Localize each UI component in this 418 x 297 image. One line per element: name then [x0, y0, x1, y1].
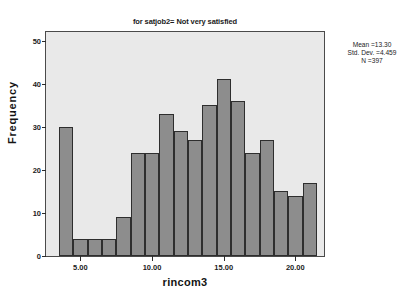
histogram-bar [245, 153, 259, 256]
y-axis-tick [42, 41, 46, 42]
histogram-bar [202, 105, 216, 256]
plot-area: 010203040505.0010.0015.0020.00 [45, 31, 325, 257]
y-axis-tick-label: 0 [37, 252, 41, 261]
chart-title: for satjob2= Not very satisfied [45, 17, 325, 26]
y-axis-tick [42, 170, 46, 171]
histogram-bar [116, 217, 130, 256]
y-axis-tick-label: 20 [33, 165, 41, 174]
x-axis-tick-label: 5.00 [73, 263, 88, 272]
histogram-bar [260, 140, 274, 256]
y-axis-tick-label: 50 [33, 36, 41, 45]
stat-n: N =397 [330, 57, 414, 65]
histogram-bar [231, 101, 245, 256]
histogram-bar [288, 196, 302, 256]
histogram-figure: for satjob2= Not very satisfied 01020304… [0, 0, 418, 297]
y-axis-label: Frequency [6, 81, 18, 144]
histogram-bar [174, 131, 188, 256]
histogram-bar [59, 127, 73, 256]
x-axis-tick-label: 10.00 [143, 263, 162, 272]
histogram-bar [102, 239, 116, 256]
y-axis-tick-label: 10 [33, 208, 41, 217]
y-axis-tick [42, 256, 46, 257]
histogram-bar [274, 191, 288, 256]
x-axis-tick [295, 256, 296, 261]
histogram-bar [188, 140, 202, 256]
histogram-bar [217, 79, 231, 256]
x-axis-tick-label: 20.00 [286, 263, 305, 272]
histogram-bar [88, 239, 102, 256]
stat-std-dev: Std. Dev. =4.459 [330, 49, 414, 57]
statistics-annotation: Mean =13.30 Std. Dev. =4.459 N =397 [330, 41, 414, 65]
y-axis-tick [42, 127, 46, 128]
histogram-bar [145, 153, 159, 256]
stat-mean: Mean =13.30 [330, 41, 414, 49]
y-axis-tick-label: 30 [33, 122, 41, 131]
y-axis-tick [42, 213, 46, 214]
y-axis-tick [42, 84, 46, 85]
x-axis-tick [224, 256, 225, 261]
x-axis-tick [80, 256, 81, 261]
histogram-bar [303, 183, 317, 256]
histogram-bar [131, 153, 145, 256]
y-axis-tick-label: 40 [33, 79, 41, 88]
x-axis-tick-label: 15.00 [214, 263, 233, 272]
histogram-bar [159, 114, 173, 256]
x-axis-tick [152, 256, 153, 261]
x-axis-label: rincom3 [45, 276, 325, 288]
bars-container [46, 32, 324, 256]
histogram-bar [73, 239, 87, 256]
